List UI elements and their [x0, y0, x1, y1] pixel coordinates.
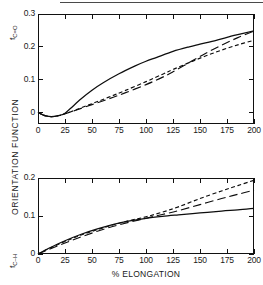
top-xtick: [146, 119, 147, 124]
bot-xtick: [254, 249, 255, 254]
bot-xtick: [38, 249, 39, 254]
bot-xtick-top: [200, 178, 201, 183]
bot-xtick-top: [146, 178, 147, 183]
top-ylabel: 0.3: [2, 9, 35, 18]
top-xtick-top: [173, 14, 174, 19]
bot-ytick: [38, 178, 43, 179]
panel-tag-c-o: fC=O: [9, 25, 17, 40]
top-xtick-top: [227, 14, 228, 19]
bot-xlabel: 125: [159, 256, 187, 265]
top-xtick: [38, 119, 39, 124]
top-xlabel: 125: [159, 126, 187, 135]
top-xtick: [65, 119, 66, 124]
bot-xtick-top: [227, 178, 228, 183]
top-xlabel: 175: [213, 126, 241, 135]
bot-xtick-top: [173, 178, 174, 183]
bot-xtick-top: [92, 178, 93, 183]
x-axis-title: % ELONGATION: [101, 269, 191, 279]
top-ytick-right: [249, 46, 254, 47]
curve-solid: [38, 208, 254, 254]
bot-ytick: [38, 216, 43, 217]
bot-xtick-top: [65, 178, 66, 183]
top-xtick-top: [119, 14, 120, 19]
top-xtick: [173, 119, 174, 124]
bot-xlabel: 75: [105, 256, 133, 265]
curve-short-dash: [38, 180, 254, 254]
top-ylabel: 0.1: [2, 75, 35, 84]
bot-xtick: [227, 249, 228, 254]
bot-xtick: [92, 249, 93, 254]
top-xlabel: 150: [186, 126, 214, 135]
bot-xtick: [200, 249, 201, 254]
top-xtick: [254, 119, 255, 124]
top-xtick: [227, 119, 228, 124]
bot-xtick-top: [38, 178, 39, 183]
top-ytick: [38, 46, 43, 47]
top-xlabel: 0: [24, 126, 52, 135]
panel-tag-c-h: fC–H: [9, 254, 17, 268]
top-ylabel: 0.2: [2, 42, 35, 51]
top-ytick: [38, 112, 43, 113]
bot-xtick: [119, 249, 120, 254]
curves-bottom: [0, 0, 263, 285]
bot-xtick: [173, 249, 174, 254]
y-axis-title: ORIENTATION FUNCTION: [10, 99, 20, 215]
top-ytick: [38, 79, 43, 80]
top-ytick-right: [249, 79, 254, 80]
bot-xlabel: 50: [78, 256, 106, 265]
top-xtick-top: [92, 14, 93, 19]
bot-xlabel: 25: [51, 256, 79, 265]
bot-xtick-top: [119, 178, 120, 183]
top-xlabel: 200: [240, 126, 263, 135]
top-xlabel: 75: [105, 126, 133, 135]
top-xtick: [119, 119, 120, 124]
bot-xlabel: 200: [240, 256, 263, 265]
bot-xlabel: 100: [132, 256, 160, 265]
bot-xlabel: 0: [24, 256, 52, 265]
bot-xlabel: 175: [213, 256, 241, 265]
top-xtick: [92, 119, 93, 124]
top-ytick: [38, 14, 43, 15]
top-xtick: [200, 119, 201, 124]
top-xlabel: 50: [78, 126, 106, 135]
curve-long-dash: [38, 190, 254, 254]
top-xtick-top: [200, 14, 201, 19]
top-xlabel: 25: [51, 126, 79, 135]
top-ytick-right: [249, 112, 254, 113]
top-xtick-top: [38, 14, 39, 19]
top-xtick-top: [254, 14, 255, 19]
figure-root: 00.10.20.3025507510012515017520000.10.20…: [0, 0, 263, 285]
top-xtick-top: [65, 14, 66, 19]
bot-ytick-right: [249, 216, 254, 217]
top-xtick-top: [146, 14, 147, 19]
bot-xtick: [146, 249, 147, 254]
bot-xlabel: 150: [186, 256, 214, 265]
bot-xtick: [65, 249, 66, 254]
bot-xtick-top: [254, 178, 255, 183]
top-xlabel: 100: [132, 126, 160, 135]
